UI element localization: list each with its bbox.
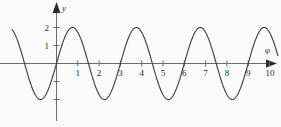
x-tick-label-1: 1 bbox=[76, 68, 81, 78]
y-tick-label-1: 1 bbox=[45, 41, 50, 51]
sine-wave-plot: 1 2 3 4 5 6 7 8 9 10 2 1 y φ bbox=[0, 0, 281, 127]
x-tick-label-2: 2 bbox=[97, 68, 102, 78]
y-axis-arrow-icon bbox=[53, 2, 61, 13]
x-tick-label-7: 7 bbox=[203, 68, 208, 78]
plot-canvas: 1 2 3 4 5 6 7 8 9 10 2 1 y φ bbox=[0, 0, 281, 127]
x-tick-label-8: 8 bbox=[225, 68, 230, 78]
x-axis-arrow-icon bbox=[266, 60, 277, 68]
y-tick-label-2: 2 bbox=[45, 23, 50, 33]
y-axis-label: y bbox=[61, 3, 66, 13]
x-tick-label-4: 4 bbox=[139, 68, 144, 78]
x-tick-label-5: 5 bbox=[161, 68, 166, 78]
x-tick-label-10: 10 bbox=[266, 68, 276, 78]
y-tick-labels: 2 1 bbox=[45, 23, 50, 51]
x-axis bbox=[0, 60, 277, 68]
x-axis-label: φ bbox=[265, 45, 270, 55]
